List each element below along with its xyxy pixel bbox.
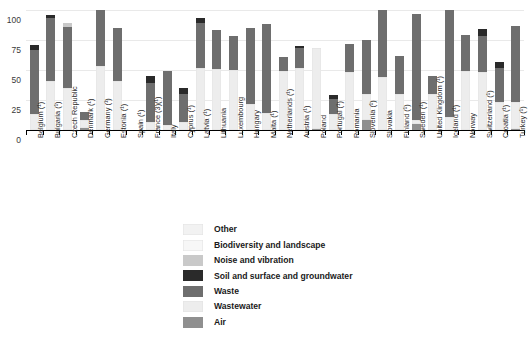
legend-label: Soil and surface and groundwater — [214, 272, 352, 281]
chart-legend: OtherBiodiversity and landscapeNoise and… — [183, 222, 513, 330]
category-label: Czech Republic — [71, 86, 78, 138]
legend-swatch — [183, 317, 203, 328]
bar-segment — [495, 62, 504, 68]
bar-segment — [378, 10, 387, 77]
legend-item[interactable]: Noise and vibration — [183, 253, 513, 268]
bar-segment — [461, 35, 470, 71]
legend-swatch — [183, 286, 203, 297]
legend-item[interactable]: Other — [183, 222, 513, 237]
legend-label: Biodiversity and landscape — [214, 241, 325, 250]
bar-segment — [96, 10, 105, 66]
category-label: Spain (¹) — [137, 110, 144, 138]
category-label: Sweden (¹) — [419, 102, 426, 138]
category-label: Italy — [170, 124, 177, 138]
legend-item[interactable]: Soil and surface and groundwater — [183, 268, 513, 283]
legend-swatch — [183, 270, 203, 281]
legend-label: Wastewater — [214, 302, 261, 311]
bar-segment — [246, 28, 255, 104]
bar-segment — [196, 18, 205, 23]
bar-segment — [345, 44, 354, 73]
bar-segment — [395, 56, 404, 94]
bar-segment — [478, 29, 487, 36]
bar-segment — [495, 68, 504, 103]
category-label: Malta (¹) — [270, 110, 277, 138]
bar-segment — [329, 95, 338, 99]
y-axis-tick-label: 50 — [0, 76, 21, 85]
category-label: Bulgaria (¹) — [54, 101, 61, 138]
category-label: Cyprus (¹) — [187, 105, 194, 138]
bar-segment — [63, 23, 72, 27]
category-label: Turkey (¹) — [519, 106, 526, 138]
bar-segment — [295, 46, 304, 48]
y-axis-tick-label: 0 — [0, 136, 21, 145]
category-label: Luxembourg — [237, 97, 244, 138]
chart-root: 0255075100 Belgium (¹)Bulgaria (¹)Czech … — [0, 0, 529, 340]
category-label: Portugal (¹) — [336, 101, 343, 138]
bar-segment — [146, 76, 155, 83]
category-label: United Kingdom (¹) — [436, 76, 443, 138]
category-label: Hungary — [253, 110, 260, 138]
category-label: Switzerland (¹) — [486, 90, 493, 138]
bar-segment — [113, 28, 122, 81]
legend-item[interactable]: Biodiversity and landscape — [183, 237, 513, 252]
legend-label: Noise and vibration — [214, 256, 294, 265]
category-label: Germany (¹) — [104, 98, 111, 138]
y-axis-tick-label: 100 — [0, 16, 21, 25]
bar-segment — [46, 18, 55, 80]
legend-swatch — [183, 224, 203, 235]
legend-item[interactable]: Waste — [183, 284, 513, 299]
bar-segment — [478, 36, 487, 72]
category-label: Finland (¹) — [403, 104, 410, 138]
bar-segment — [445, 10, 454, 117]
legend-item[interactable]: Air — [183, 314, 513, 329]
legend-label: Other — [214, 225, 237, 234]
y-axis-tick-label: 75 — [0, 46, 21, 55]
bar-segment — [212, 30, 221, 68]
bar-segment — [46, 15, 55, 19]
category-label: Iceland (¹) — [452, 105, 459, 138]
legend-swatch — [183, 255, 203, 266]
legend-label: Air — [214, 318, 226, 327]
category-label: Netherlands (¹) — [286, 89, 293, 138]
category-label: Austria (¹) — [303, 106, 310, 138]
legend-item[interactable]: Wastewater — [183, 299, 513, 314]
category-label: Norway — [469, 113, 476, 138]
y-axis-tick-label: 25 — [0, 106, 21, 115]
bar-segment — [511, 26, 520, 102]
category-label: Poland — [320, 115, 327, 138]
category-label: Estonia (¹) — [120, 104, 127, 138]
legend-swatch — [183, 301, 203, 312]
bar-segment — [262, 24, 271, 113]
bar-segment — [63, 27, 72, 88]
category-label: Latvia (¹) — [203, 109, 210, 138]
bar-segment — [362, 40, 371, 94]
bar-segment — [279, 57, 288, 71]
legend-swatch — [183, 240, 203, 251]
bar-segment — [229, 36, 238, 70]
category-axis: Belgium (¹)Bulgaria (¹)Czech RepublicDen… — [26, 130, 524, 208]
y-axis: 0255075100 — [0, 10, 24, 130]
category-label: Romania — [353, 108, 360, 138]
category-tick — [26, 130, 27, 135]
bar-segment — [179, 88, 188, 94]
bar-segment — [30, 45, 39, 50]
category-label: France (3)(¹) — [154, 97, 161, 138]
category-label: Slovakia — [386, 110, 393, 138]
category-label: Lithuania — [220, 108, 227, 138]
bar-segment — [295, 48, 304, 67]
bar-segment — [196, 23, 205, 67]
category-label: Slovenia (¹) — [369, 100, 376, 138]
category-label: Croatia (¹) — [502, 105, 509, 138]
legend-label: Waste — [214, 287, 239, 296]
category-label: Belgium (¹) — [37, 102, 44, 138]
category-label: Denmark (¹) — [87, 99, 94, 138]
bar-segment — [163, 71, 172, 125]
